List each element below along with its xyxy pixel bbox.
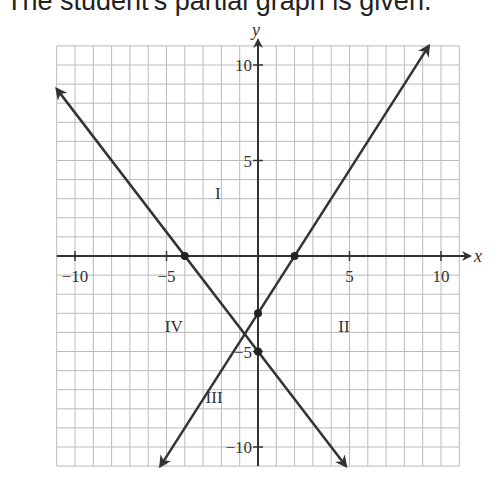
- data-point: [181, 252, 189, 260]
- y-tick-label: 10: [235, 56, 252, 75]
- y-tick-label: −5: [234, 343, 252, 362]
- x-tick-label: −10: [62, 267, 89, 286]
- axes: [57, 40, 470, 466]
- y-tick-label: −10: [225, 438, 252, 457]
- region-label: II: [338, 317, 350, 336]
- y-tick-label: 5: [244, 152, 253, 171]
- coordinate-plane: −10−5510105−5−10xyIIIIIIIV: [0, 0, 498, 494]
- data-point: [254, 348, 262, 356]
- y-axis-label: y: [250, 20, 260, 40]
- region-label: I: [215, 184, 221, 203]
- x-tick-label: −5: [157, 267, 175, 286]
- plotted-line-1: [57, 89, 346, 466]
- data-point: [291, 252, 299, 260]
- axis-labels: −10−5510105−5−10xyIIIIIIIV: [62, 20, 482, 457]
- data-point: [254, 309, 262, 317]
- x-tick-label: 5: [345, 267, 354, 286]
- x-axis-label: x: [473, 246, 482, 266]
- region-label: III: [206, 388, 223, 407]
- region-label: IV: [165, 317, 184, 336]
- x-tick-label: 10: [433, 267, 450, 286]
